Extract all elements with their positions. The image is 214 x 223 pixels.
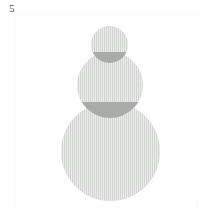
small-disc	[91, 26, 128, 63]
figure-canvas: 5	[0, 0, 214, 223]
panel-label: 5	[9, 2, 15, 14]
